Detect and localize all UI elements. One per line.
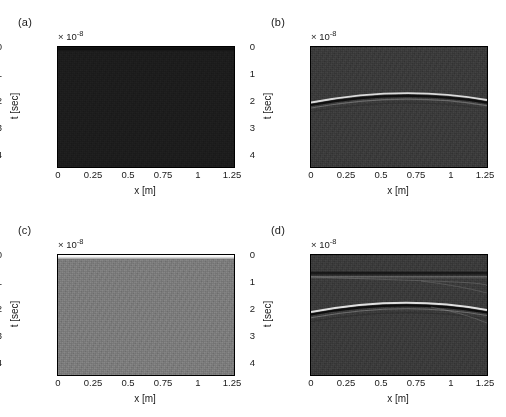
exponent-value: -8 (77, 29, 84, 38)
panel-a-ytick-2: 2 (0, 95, 2, 106)
exponent-prefix: × 10 (311, 239, 330, 250)
panel-b-plot-area (310, 46, 488, 168)
panel-b-ytick-2: 2 (239, 95, 255, 106)
panel-c-plot-area (57, 254, 235, 376)
panel-b-ytick-3: 3 (239, 122, 255, 133)
panel-a-exponent: × 10-8 (58, 29, 83, 42)
panel-a: (a) × 10-8 0 1 2 3 4 0 0.25 0.5 0.75 1 1… (0, 0, 253, 209)
exponent-value: -8 (77, 237, 84, 246)
panel-c-image (58, 255, 234, 375)
panel-c-xtick-1: 0.25 (84, 377, 103, 388)
panel-a-xtick-0: 0 (55, 169, 60, 180)
panel-b: (b) × 10-8 0 1 2 3 4 0 0.25 0.5 0.75 1 1… (253, 0, 506, 209)
panel-b-xtick-2: 0.5 (374, 169, 387, 180)
panel-d-xtick-5: 1.25 (476, 377, 495, 388)
panel-a-image (58, 47, 234, 167)
panel-a-xtick-5: 1.25 (223, 169, 242, 180)
panel-b-label: (b) (271, 16, 285, 28)
panel-a-xtick-4: 1 (195, 169, 200, 180)
panel-c-xlabel: x [m] (134, 393, 156, 404)
panel-d-ylabel: t [sec] (262, 301, 273, 328)
panel-d-xtick-2: 0.5 (374, 377, 387, 388)
panel-a-xtick-2: 0.5 (121, 169, 134, 180)
panel-d-exponent: × 10-8 (311, 237, 336, 250)
panel-b-xtick-1: 0.25 (337, 169, 356, 180)
panel-b-xtick-4: 1 (448, 169, 453, 180)
panel-b-xlabel: x [m] (387, 185, 409, 196)
exponent-prefix: × 10 (58, 239, 77, 250)
panel-b-exponent: × 10-8 (311, 29, 336, 42)
panel-d-xtick-4: 1 (448, 377, 453, 388)
panel-c-ytick-2: 2 (0, 303, 2, 314)
direct-wave-band (58, 255, 234, 259)
panel-a-xtick-3: 0.75 (154, 169, 173, 180)
panel-a-ytick-0: 0 (0, 41, 2, 52)
panel-c-label: (c) (18, 224, 31, 236)
panel-d-xtick-3: 0.75 (407, 377, 426, 388)
panel-d-ytick-2: 2 (239, 303, 255, 314)
exponent-value: -8 (330, 237, 337, 246)
noise-texture (58, 255, 234, 375)
panel-b-ytick-0: 0 (239, 41, 255, 52)
panel-d-ytick-1: 1 (239, 276, 255, 287)
panel-a-ytick-4: 4 (0, 149, 2, 160)
panel-d-xtick-0: 0 (308, 377, 313, 388)
panel-a-xtick-1: 0.25 (84, 169, 103, 180)
exponent-prefix: × 10 (311, 31, 330, 42)
panel-a-label: (a) (18, 16, 32, 28)
panel-b-xtick-5: 1.25 (476, 169, 495, 180)
panel-d-ytick-3: 3 (239, 330, 255, 341)
panel-c-ytick-4: 4 (0, 357, 2, 368)
panel-d-xtick-1: 0.25 (337, 377, 356, 388)
panel-b-xtick-3: 0.75 (407, 169, 426, 180)
panel-c-xtick-0: 0 (55, 377, 60, 388)
panel-c-ytick-1: 1 (0, 276, 2, 287)
panel-d-reflections (311, 255, 487, 375)
panel-d-ytick-0: 0 (239, 249, 255, 260)
panel-d-ytick-4: 4 (239, 357, 255, 368)
panel-c-ytick-0: 0 (0, 249, 2, 260)
panel-d-xlabel: x [m] (387, 393, 409, 404)
panel-a-plot-area (57, 46, 235, 168)
panel-c-xtick-4: 1 (195, 377, 200, 388)
panel-b-ytick-4: 4 (239, 149, 255, 160)
panel-b-ytick-1: 1 (239, 68, 255, 79)
exponent-prefix: × 10 (58, 31, 77, 42)
noise-texture (58, 47, 234, 167)
panel-c-ylabel: t [sec] (9, 301, 20, 328)
panel-b-ylabel: t [sec] (262, 93, 273, 120)
panel-c-xtick-5: 1.25 (223, 377, 242, 388)
panel-d-label: (d) (271, 224, 285, 236)
panel-b-reflections (311, 47, 487, 167)
panel-a-ytick-1: 1 (0, 68, 2, 79)
panel-c-xtick-3: 0.75 (154, 377, 173, 388)
panel-c-xtick-2: 0.5 (121, 377, 134, 388)
direct-wave-band (58, 47, 234, 51)
panel-b-image (311, 47, 487, 167)
exponent-value: -8 (330, 29, 337, 38)
panel-a-ylabel: t [sec] (9, 93, 20, 120)
panel-c-ytick-3: 3 (0, 330, 2, 341)
panel-a-xlabel: x [m] (134, 185, 156, 196)
panel-d: (d) × 10-8 0 1 2 3 4 0 (253, 208, 506, 417)
panel-c: (c) × 10-8 0 1 2 3 4 0 0.25 0.5 0.75 1 1… (0, 208, 253, 417)
panel-a-ytick-3: 3 (0, 122, 2, 133)
panel-c-exponent: × 10-8 (58, 237, 83, 250)
panel-b-xtick-0: 0 (308, 169, 313, 180)
figure-root: (a) × 10-8 0 1 2 3 4 0 0.25 0.5 0.75 1 1… (0, 0, 506, 417)
panel-d-image (311, 255, 487, 375)
panel-d-plot-area (310, 254, 488, 376)
